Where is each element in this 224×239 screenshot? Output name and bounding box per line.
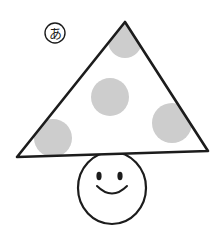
illustration-canvas: あ	[0, 0, 224, 239]
spot-bottom-right	[152, 103, 192, 143]
cap-group	[17, 22, 208, 157]
label-hiragana-a-text: あ	[49, 26, 62, 41]
circled-hiragana-a: あ	[45, 23, 65, 43]
mushroom-head-face	[78, 152, 146, 224]
spot-bottom-left	[34, 119, 72, 157]
spot-center	[91, 78, 129, 116]
head-group	[78, 152, 146, 224]
eye-right	[117, 172, 122, 180]
mushroom-figure: あ	[0, 0, 224, 239]
eye-left	[96, 172, 101, 180]
